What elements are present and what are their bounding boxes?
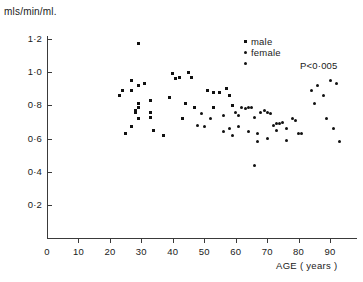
data-point-male [184,102,187,105]
x-tick-mark [236,239,237,243]
legend: male female [244,36,281,58]
y-tick-mark [48,105,52,106]
legend-item-male[interactable]: male [244,36,281,47]
y-tick-label: 1·2 [14,33,42,44]
data-point-female [253,116,256,119]
data-point-female [237,114,240,117]
data-point-female [196,124,199,127]
data-point-male [168,96,171,99]
data-point-male [181,117,184,120]
legend-item-female[interactable]: female [244,47,281,58]
p-value-annotation: P<0·005 [300,60,338,71]
data-point-female [234,111,237,114]
x-tick-mark [78,239,79,243]
data-point-female [222,114,225,117]
data-point-female [281,121,284,124]
x-tick-mark [173,239,174,243]
data-point-male [137,106,140,109]
y-tick-mark [48,139,52,140]
x-tick-label: 30 [130,246,152,257]
y-tick-mark [48,72,52,73]
x-tick-mark [204,239,205,243]
data-point-female [329,79,332,82]
data-point-male [187,71,190,74]
x-tick-label: 60 [225,246,247,257]
data-point-female [228,127,231,130]
data-point-female [247,130,250,133]
data-point-female [266,137,269,140]
data-point-male [130,89,133,92]
data-point-male [212,106,215,109]
data-point-female [200,112,203,115]
data-point-female [275,129,278,132]
data-point-male [143,82,146,85]
y-tick-label: 0·4 [14,166,42,177]
x-tick-label: 50 [193,246,215,257]
data-point-female [253,164,256,167]
data-point-male [130,79,133,82]
x-tick-label: 0 [36,246,58,257]
data-point-male [118,94,121,97]
y-tick-label: 0·2 [14,199,42,210]
y-axis-title: mls/min/ml. [4,6,57,17]
data-point-female [256,140,259,143]
data-point-female [237,125,240,128]
x-tick-label: 80 [288,246,310,257]
y-tick-label: 0·6 [14,133,42,144]
data-point-female [338,140,341,143]
x-axis-title: AGE ( years ) [276,260,337,271]
data-point-female [244,62,247,65]
y-axis-line [47,36,48,239]
x-tick-mark [267,239,268,243]
data-point-female [250,106,253,109]
legend-label-male: male [251,36,272,47]
data-point-female [310,89,313,92]
data-point-male [228,94,231,97]
y-tick-mark [48,172,52,173]
data-point-male [218,91,221,94]
data-point-male [212,91,215,94]
data-point-male [137,84,140,87]
x-tick-mark [110,239,111,243]
data-point-female [222,130,225,133]
data-point-female [285,127,288,130]
data-point-male [231,104,234,107]
data-point-female [313,102,316,105]
data-point-male [206,89,209,92]
data-point-male [149,111,152,114]
data-point-male [190,76,193,79]
y-tick-label: 0·8 [14,99,42,110]
male-marker-icon [244,40,247,43]
data-point-male [137,42,140,45]
x-tick-label: 20 [99,246,121,257]
data-point-male [121,89,124,92]
data-point-male [149,116,152,119]
data-point-male [137,117,140,120]
data-point-female [300,132,303,135]
x-tick-label: 10 [67,246,89,257]
data-point-male [193,106,196,109]
data-point-female [256,132,259,135]
data-point-male [152,129,155,132]
x-tick-mark [141,239,142,243]
legend-label-female: female [251,47,281,58]
data-point-female [269,112,272,115]
x-tick-mark [299,239,300,243]
data-point-male [130,125,133,128]
data-point-female [285,139,288,142]
data-point-male [162,134,165,137]
female-marker-icon [244,51,247,54]
data-point-female [335,82,338,85]
x-tick-label: 70 [256,246,278,257]
data-point-female [203,125,206,128]
data-point-female [231,134,234,137]
x-tick-label: 90 [319,246,341,257]
data-point-male [225,87,228,90]
y-tick-mark [48,39,52,40]
data-point-female [209,117,212,120]
y-tick-label: 1·0 [14,66,42,77]
data-point-female [322,94,325,97]
x-axis-line [47,238,357,239]
data-point-female [325,117,328,120]
data-point-male [178,76,181,79]
